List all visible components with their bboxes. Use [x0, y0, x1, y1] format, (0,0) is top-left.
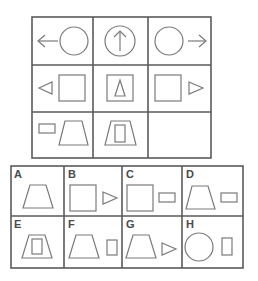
option-label-d: D [186, 169, 194, 180]
small-rectangle-icon [159, 193, 175, 202]
vertical-rectangle-icon [115, 125, 125, 142]
triangle-right-icon [189, 82, 203, 94]
arrow-left-icon [38, 35, 58, 47]
option-b[interactable] [70, 185, 117, 211]
trapezoid-icon [59, 121, 88, 145]
cell-r1c3 [155, 27, 206, 55]
small-rectangle-icon [221, 193, 237, 202]
square-icon [59, 75, 85, 101]
option-g[interactable] [126, 235, 176, 258]
option-label-h: H [186, 219, 194, 230]
option-label-b: B [68, 169, 76, 180]
trapezoid-icon [23, 185, 53, 208]
puzzle-figure [0, 0, 258, 281]
arrow-up-icon [114, 31, 126, 51]
option-label-g: G [126, 219, 135, 230]
option-label-c: C [126, 169, 134, 180]
arrow-right-icon [188, 35, 206, 47]
triangle-right-icon [103, 192, 117, 204]
trapezoid-icon [186, 186, 215, 209]
trapezoid-icon [126, 235, 156, 258]
circle-icon [60, 27, 88, 55]
cell-r3c1 [39, 121, 88, 145]
option-a[interactable] [23, 185, 53, 208]
circle-icon [185, 233, 213, 261]
option-label-e: E [14, 219, 21, 230]
option-d[interactable] [186, 186, 237, 209]
square-icon [155, 75, 181, 101]
option-h[interactable] [185, 233, 232, 261]
option-e[interactable] [22, 235, 52, 258]
trapezoid-icon [69, 235, 99, 258]
option-f[interactable] [69, 235, 117, 258]
option-c[interactable] [127, 185, 175, 211]
small-rectangle-icon [39, 124, 55, 133]
option-label-a: A [14, 169, 22, 180]
triangle-left-icon [39, 82, 52, 94]
cell-r3c2 [105, 121, 136, 145]
cell-r2c2 [107, 75, 133, 101]
square-icon [70, 185, 96, 211]
vertical-rectangle-icon [107, 240, 117, 255]
square-icon [127, 185, 153, 211]
triangle-right-icon [162, 243, 176, 255]
triangle-up-icon [115, 80, 125, 96]
cell-r1c2 [105, 26, 135, 56]
circle-icon [155, 27, 183, 55]
vertical-rectangle-icon [32, 239, 42, 254]
option-label-f: F [68, 219, 75, 230]
cell-r2c1 [39, 75, 85, 101]
vertical-rectangle-icon [222, 238, 232, 255]
cell-r2c3 [155, 75, 203, 101]
cell-r1c1 [38, 27, 88, 55]
